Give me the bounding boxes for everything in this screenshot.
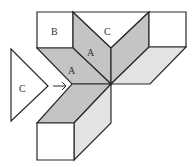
square-right — [149, 12, 186, 47]
arrow-right-icon — [53, 82, 66, 90]
square-bottom — [37, 123, 74, 160]
net-canvas: B C A A C — [0, 0, 196, 167]
label-c-left: C — [19, 83, 26, 94]
geometric-net-diagram: B C A A C — [0, 0, 196, 167]
triangle-c-left — [11, 49, 48, 121]
label-a-upper: A — [87, 47, 95, 58]
label-b: B — [51, 26, 58, 37]
label-a-lower: A — [68, 65, 76, 76]
label-c-top: C — [104, 26, 111, 37]
